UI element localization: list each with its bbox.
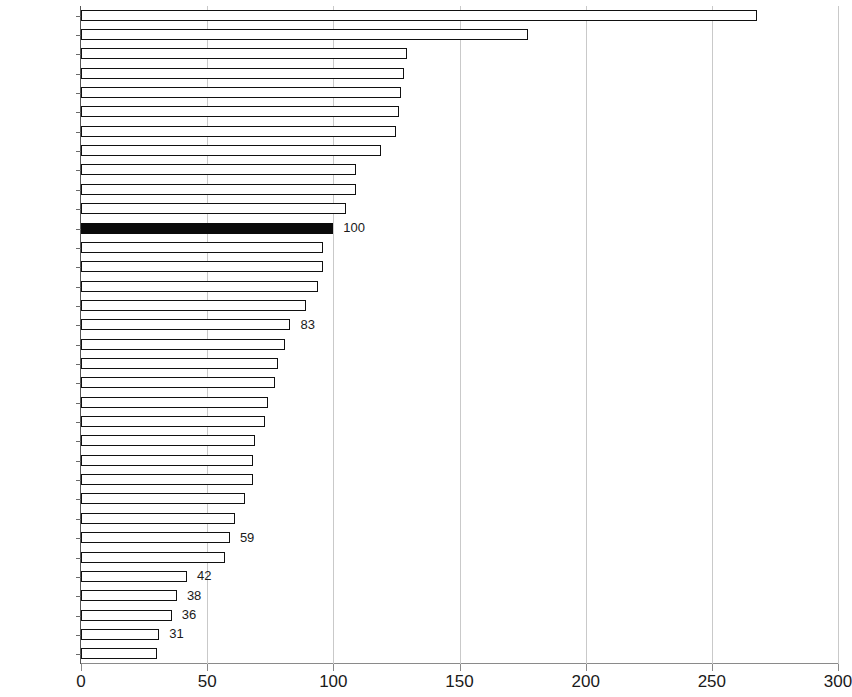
bar-finland (81, 164, 356, 175)
x-tick-label-300: 300 (824, 672, 852, 692)
bar-spain (81, 281, 318, 292)
bar-row: EU28100 (81, 219, 838, 238)
x-tick-mark-0 (81, 664, 82, 671)
gridline-300 (838, 6, 839, 664)
bar-latvia (81, 493, 245, 504)
bar-albania (81, 648, 157, 659)
bar-row: Sweden (81, 103, 838, 122)
bar-montenegro (81, 571, 187, 582)
bar-row: Lithuania (81, 393, 838, 412)
x-tick-label-200: 200 (571, 672, 599, 692)
bar-row: Spain (81, 277, 838, 296)
bar-serbia (81, 610, 172, 621)
bar-lithuania (81, 397, 268, 408)
bar-row: Bulgaria (81, 548, 838, 567)
bar-row: Germany (81, 122, 838, 141)
x-tick-mark-50 (207, 664, 208, 671)
bar-row: Finland (81, 161, 838, 180)
bar-macedonia (81, 590, 177, 601)
bar-row: Ireland (81, 25, 838, 44)
bar-estonia (81, 416, 265, 427)
bar-sweden (81, 106, 399, 117)
x-tick-mark-200 (586, 664, 587, 671)
bar-row: Denmark (81, 83, 838, 102)
bar-row: Portugal (81, 374, 838, 393)
bar-row: Estonia (81, 412, 838, 431)
bar-bih (81, 629, 159, 640)
bar-row: Albania (81, 645, 838, 664)
bar-france (81, 203, 346, 214)
bar-row: Belgium (81, 141, 838, 160)
bar-row: BiH31 (81, 625, 838, 644)
bar-greece (81, 474, 253, 485)
bar-row: UK (81, 180, 838, 199)
bar-row: Nether (81, 45, 838, 64)
bar-row: Hungary (81, 451, 838, 470)
plot-area: LuxembIrelandNetherAustriaDenmarkSwedenG… (81, 6, 838, 664)
value-label-montenegro: 42 (197, 566, 211, 585)
value-label-slovenia: 83 (300, 315, 314, 334)
bar-austria (81, 68, 404, 79)
bar-row: Macedonia38 (81, 587, 838, 606)
bar-czech-r (81, 300, 306, 311)
x-tick-label-250: 250 (698, 672, 726, 692)
bar-italy (81, 242, 323, 253)
bar-rows: LuxembIrelandNetherAustriaDenmarkSwedenG… (81, 6, 838, 664)
bar-hungary (81, 455, 253, 466)
bar-row: Greece (81, 470, 838, 489)
x-tick-mark-250 (712, 664, 713, 671)
x-tick-label-100: 100 (319, 672, 347, 692)
bar-nether (81, 48, 407, 59)
value-label-eu28: 100 (343, 218, 365, 237)
bar-croatia (81, 532, 230, 543)
bar-row: France (81, 200, 838, 219)
bar-ireland (81, 29, 528, 40)
value-label-serbia: 36 (182, 605, 196, 624)
bar-poland (81, 435, 255, 446)
bar-row: Italy (81, 238, 838, 257)
bar-romania (81, 513, 235, 524)
bar-row: Montenegro42 (81, 567, 838, 586)
value-label-macedonia: 38 (187, 586, 201, 605)
bar-row: Slovakia (81, 354, 838, 373)
x-tick-label-50: 50 (198, 672, 217, 692)
bar-bulgaria (81, 552, 225, 563)
bar-luxemb (81, 10, 757, 21)
x-tick-label-0: 0 (76, 672, 85, 692)
x-tick-labels: 050100150200250300 (0, 672, 851, 697)
bar-denmark (81, 87, 401, 98)
bar-eu28 (81, 223, 333, 234)
x-tick-mark-100 (333, 664, 334, 671)
bar-slovakia (81, 358, 278, 369)
bar-row: Serbia36 (81, 606, 838, 625)
bar-slovenia (81, 319, 290, 330)
bar-portugal (81, 377, 275, 388)
bar-uk (81, 184, 356, 195)
value-label-croatia: 59 (240, 528, 254, 547)
bar-row: Slovenia83 (81, 316, 838, 335)
bar-row: Croatia59 (81, 529, 838, 548)
bar-germany (81, 126, 396, 137)
x-tick-label-150: 150 (445, 672, 473, 692)
bar-row: Luxemb (81, 6, 838, 25)
bar-belgium (81, 145, 381, 156)
x-tick-mark-300 (838, 664, 839, 671)
bar-cyprus (81, 339, 285, 350)
bar-malta (81, 261, 323, 272)
x-tick-mark-150 (460, 664, 461, 671)
bar-row: Malta (81, 258, 838, 277)
bar-row: Austria (81, 64, 838, 83)
bar-row: Romania (81, 509, 838, 528)
bar-row: Poland (81, 432, 838, 451)
bar-row: Latvia (81, 490, 838, 509)
bar-row: Czech R. (81, 296, 838, 315)
bar-row: Cyprus (81, 335, 838, 354)
value-label-bih: 31 (169, 624, 183, 643)
